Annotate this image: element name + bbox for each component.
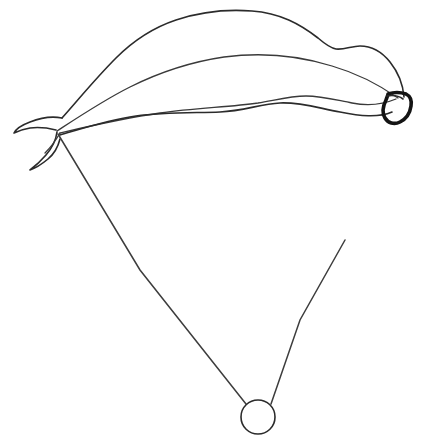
drawing-canvas <box>0 0 426 446</box>
canvas-background <box>0 0 426 446</box>
line-drawing <box>0 0 426 446</box>
